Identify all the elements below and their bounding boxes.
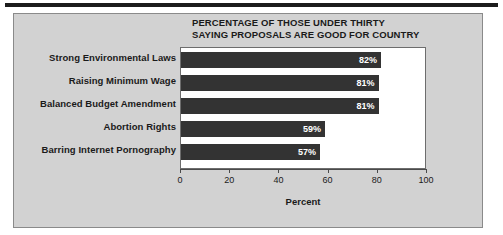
bar-row: 57%	[181, 144, 425, 160]
x-tick-label: 80	[372, 175, 382, 185]
x-tick-mark	[328, 169, 329, 173]
x-tick-mark	[180, 169, 181, 173]
x-tick-label: 60	[323, 175, 333, 185]
bar-value-label: 82%	[359, 55, 377, 65]
bar-row: 59%	[181, 121, 425, 137]
bar-strong-environmental-laws: 82%	[181, 52, 381, 68]
category-label-balanced-budget-amendment: Balanced Budget Amendment	[14, 98, 176, 109]
x-tick-label: 40	[273, 175, 283, 185]
x-tick-mark	[278, 169, 279, 173]
bar-value-label: 57%	[298, 147, 316, 157]
x-tick-mark	[229, 169, 230, 173]
bar-value-label: 59%	[303, 124, 321, 134]
bar-raising-minimum-wage: 81%	[181, 75, 379, 91]
bar-value-label: 81%	[357, 78, 375, 88]
chart-title-line-2: SAYING PROPOSALS ARE GOOD FOR COUNTRY	[192, 29, 472, 41]
x-tick-label: 100	[418, 175, 433, 185]
x-tick-label: 0	[177, 175, 182, 185]
x-axis-title: Percent	[180, 196, 426, 207]
x-tick-label: 20	[224, 175, 234, 185]
chart-title-line-1: PERCENTAGE OF THOSE UNDER THIRTY	[192, 17, 472, 29]
category-label-abortion-rights: Abortion Rights	[14, 121, 176, 132]
top-rule-divider	[5, 3, 498, 7]
x-tick-mark	[377, 169, 378, 173]
bar-row: 81%	[181, 75, 425, 91]
bar-barring-internet-pornography: 57%	[181, 144, 320, 160]
bar-balanced-budget-amendment: 81%	[181, 98, 379, 114]
chart-figure: PERCENTAGE OF THOSE UNDER THIRTY SAYING …	[0, 0, 503, 235]
x-axis-line	[180, 169, 426, 170]
category-label-barring-internet-pornography: Barring Internet Pornography	[14, 144, 176, 155]
category-axis-labels: Strong Environmental Laws Raising Minimu…	[14, 47, 176, 169]
bar-abortion-rights: 59%	[181, 121, 325, 137]
chart-title: PERCENTAGE OF THOSE UNDER THIRTY SAYING …	[192, 17, 472, 40]
category-label-raising-minimum-wage: Raising Minimum Wage	[14, 75, 176, 86]
category-label-strong-environmental-laws: Strong Environmental Laws	[14, 52, 176, 63]
bar-row: 81%	[181, 98, 425, 114]
bar-value-label: 81%	[357, 101, 375, 111]
x-tick-mark	[426, 169, 427, 173]
plot-area: 82% 81% 81% 59% 57%	[180, 47, 426, 169]
bar-row: 82%	[181, 52, 425, 68]
